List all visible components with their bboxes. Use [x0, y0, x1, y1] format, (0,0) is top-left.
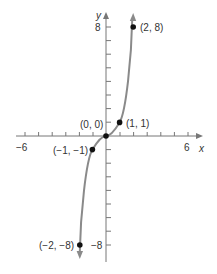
x-max-label: 6: [184, 142, 190, 153]
curve-arrow-up-icon: [130, 13, 136, 21]
x-axis-label: x: [198, 143, 205, 154]
curve-arrow-down-icon: [77, 251, 83, 259]
point-label-m2: (−2, −8): [39, 240, 74, 251]
y-axis-label: y: [95, 10, 102, 21]
point-1: [117, 120, 123, 126]
x-min-label: −6: [16, 142, 28, 153]
point-label-1: (1, 1): [126, 118, 149, 129]
point-label-0: (0, 0): [80, 119, 103, 130]
cubic-function-graph: y 8 −8 −6 6 x (2, 8) (1, 1) (0, 0) (−1, …: [0, 0, 217, 274]
point-m1: [90, 147, 96, 153]
y-min-label: −8: [91, 240, 103, 251]
point-2: [130, 24, 136, 30]
y-max-label: 8: [95, 22, 101, 33]
point-0: [103, 133, 109, 139]
point-label-m1: (−1, −1): [53, 145, 88, 156]
point-label-2: (2, 8): [140, 22, 163, 33]
point-m2: [77, 242, 83, 248]
